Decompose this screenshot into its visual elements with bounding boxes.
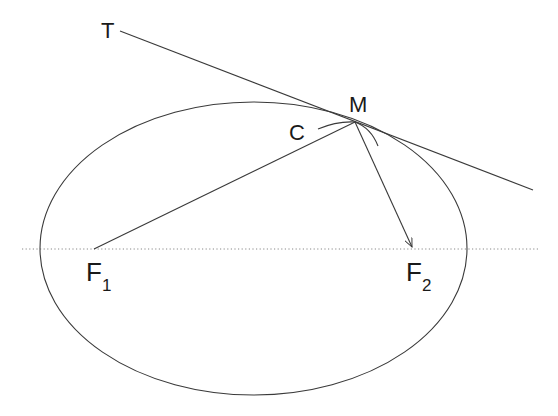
label-c: C bbox=[289, 120, 305, 145]
focal-radius-f1-m bbox=[94, 122, 355, 249]
label-f2-subscript: 2 bbox=[422, 276, 431, 295]
ellipse-diagram: T M C F1 F2 bbox=[0, 0, 558, 416]
label-f1: F1 bbox=[86, 257, 111, 295]
label-m: M bbox=[349, 92, 367, 117]
label-f2: F2 bbox=[406, 257, 431, 295]
label-f1-subscript: 1 bbox=[102, 276, 111, 295]
label-f2-letter: F bbox=[406, 257, 422, 287]
arrow-m-to-f2 bbox=[355, 122, 412, 247]
label-f1-letter: F bbox=[86, 257, 102, 287]
label-t: T bbox=[101, 18, 114, 43]
